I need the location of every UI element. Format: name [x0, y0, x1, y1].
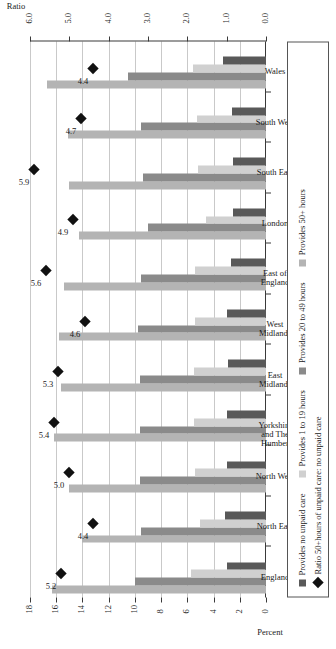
- category-tick: [266, 293, 271, 294]
- bar-provides-no-unpaid-care: [232, 107, 266, 115]
- bar-provides-1-to-19-hours: [206, 216, 266, 224]
- ratio-axis-tick-label: 0.0: [260, 12, 270, 23]
- bar-provides-no-unpaid-care: [231, 258, 266, 266]
- ratio-marker: [48, 416, 59, 427]
- ratio-marker: [56, 568, 67, 579]
- legend-square-icon: [299, 470, 306, 477]
- legend-diamond-icon: [312, 576, 323, 587]
- category-label-wales: Wales: [265, 66, 286, 75]
- bar-provides-20-to-49-hours: [140, 426, 266, 434]
- bar-provides-20-to-49-hours: [148, 223, 266, 231]
- bar-provides-20-to-49-hours: [141, 274, 266, 282]
- legend-square-icon: [299, 579, 306, 586]
- percent-axis-tick-label: 6: [181, 609, 191, 613]
- category-tick: [266, 545, 271, 546]
- category-label-east-of-england: East of England: [261, 268, 289, 286]
- category-label-england: England: [261, 572, 289, 581]
- bar-provides-20-to-49-hours: [141, 122, 266, 130]
- ratio-marker: [68, 214, 79, 225]
- ratio-axis-tick-label: 6.0: [24, 12, 34, 23]
- ratio-axis-tick-label: 4.0: [103, 12, 113, 23]
- ratio-axis-tick: [266, 36, 267, 41]
- bar-provides-no-unpaid-care: [223, 56, 266, 64]
- bar-provides-50-hours: [54, 434, 266, 442]
- ratio-marker: [87, 62, 98, 73]
- percent-axis-tick: [214, 597, 215, 602]
- bar-provides-20-to-49-hours: [141, 527, 266, 535]
- bar-provides-1-to-19-hours: [191, 569, 266, 577]
- legend-label: Provides 1 to 19 hours: [297, 390, 307, 467]
- legend-label: Provides 20 to 49 hours: [297, 282, 307, 363]
- ratio-marker: [40, 264, 51, 275]
- legend-row-secondary: Ratio 50+hours of unpaid care: no unpaid…: [310, 52, 326, 586]
- legend-label: Ratio 50+hours of unpaid care: no unpaid…: [313, 416, 323, 574]
- bar-provides-20-to-49-hours: [138, 325, 266, 333]
- gridline: [56, 41, 57, 597]
- percent-axis-tick: [82, 597, 83, 602]
- ratio-value-label: 5.0: [54, 479, 65, 489]
- ratio-marker: [75, 113, 86, 124]
- legend-item-4[interactable]: Ratio 50+hours of unpaid care: no unpaid…: [313, 416, 323, 586]
- category-tick: [266, 394, 271, 395]
- percent-axis-tick: [240, 597, 241, 602]
- legend-label: Provides 50+ hours: [297, 189, 307, 255]
- ratio-value-label: 4.6: [70, 328, 81, 338]
- percent-axis-tick: [187, 597, 188, 602]
- chart-figure: 0246810121416180.01.02.03.04.05.06.0Perc…: [0, 0, 336, 649]
- bar-provides-50-hours: [64, 282, 266, 290]
- bar-provides-20-to-49-hours: [140, 375, 266, 383]
- ratio-value-label: 5.9: [19, 176, 30, 186]
- ratio-axis-tick-label: 1.0: [221, 12, 231, 23]
- ratio-axis-tick: [69, 36, 70, 41]
- bar-provides-1-to-19-hours: [194, 418, 266, 426]
- percent-axis-tick-label: 10: [129, 605, 139, 614]
- category-tick: [266, 242, 271, 243]
- bar-provides-1-to-19-hours: [195, 317, 266, 325]
- category-tick: [266, 343, 271, 344]
- legend-item-0[interactable]: Provides no unpaid care: [297, 493, 307, 586]
- gridline: [109, 41, 110, 597]
- ratio-value-label: 4.4: [78, 530, 89, 540]
- legend-square-icon: [299, 367, 306, 374]
- percent-axis-tick: [56, 597, 57, 602]
- gridline: [135, 41, 136, 597]
- ratio-value-label: 4.9: [58, 226, 69, 236]
- bar-provides-20-to-49-hours: [143, 173, 266, 181]
- percent-axis-tick: [266, 597, 267, 602]
- bar-provides-no-unpaid-care: [227, 309, 266, 317]
- plot-area: 0246810121416180.01.02.03.04.05.06.0Perc…: [30, 41, 266, 597]
- bar-provides-no-unpaid-care: [227, 410, 266, 418]
- category-tick: [266, 495, 271, 496]
- percent-axis-title: Percent: [257, 626, 283, 636]
- percent-axis-tick: [135, 597, 136, 602]
- chart-legend: Provides no unpaid careProvides 1 to 19 …: [287, 41, 329, 597]
- bar-provides-20-to-49-hours: [135, 577, 266, 585]
- ratio-value-label: 5.4: [38, 429, 49, 439]
- percent-axis-tick-label: 12: [103, 605, 113, 614]
- ratio-axis-tick: [148, 36, 149, 41]
- category-label-london: London: [262, 218, 288, 227]
- bar-provides-50-hours: [69, 484, 266, 492]
- ratio-axis-title: Ratio: [7, 0, 25, 10]
- bar-provides-no-unpaid-care: [233, 208, 266, 216]
- bar-provides-no-unpaid-care: [227, 461, 266, 469]
- bar-provides-50-hours: [79, 231, 266, 239]
- percent-axis-tick-label: 16: [50, 605, 60, 614]
- ratio-axis-tick-label: 2.0: [181, 12, 191, 23]
- bar-provides-no-unpaid-care: [228, 359, 266, 367]
- category-tick: [266, 141, 271, 142]
- legend-item-2[interactable]: Provides 20 to 49 hours: [297, 282, 307, 374]
- ratio-value-label: 4.7: [66, 125, 77, 135]
- legend-item-3[interactable]: Provides 50+ hours: [297, 189, 307, 266]
- bar-provides-no-unpaid-care: [225, 511, 266, 519]
- bar-provides-50-hours: [61, 383, 266, 391]
- bar-provides-50-hours: [68, 130, 266, 138]
- percent-axis-tick-label: 18: [24, 605, 34, 614]
- percent-axis-tick-label: 8: [155, 609, 165, 613]
- legend-item-1[interactable]: Provides 1 to 19 hours: [297, 390, 307, 478]
- percent-axis-tick-label: 4: [208, 609, 218, 613]
- bar-provides-50-hours: [52, 585, 266, 593]
- bar-provides-50-hours: [82, 535, 266, 543]
- ratio-axis-tick: [30, 36, 31, 41]
- bar-provides-50-hours: [69, 181, 266, 189]
